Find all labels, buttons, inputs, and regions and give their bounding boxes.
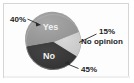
callout-value-yes: 40% xyxy=(10,15,26,24)
callout-value-no-opinion: 15% xyxy=(99,27,115,36)
pie-chart-svg: Yes No 40% 15% No opinion 45% xyxy=(0,0,134,83)
chart-plot-area: Yes No 40% 15% No opinion 45% xyxy=(0,0,134,83)
pie-inside-label-yes: Yes xyxy=(43,22,59,32)
pie-slices-group xyxy=(25,12,81,70)
callout-value-no: 45% xyxy=(81,65,97,74)
callout-name-no-opinion: No opinion xyxy=(81,37,123,46)
pie-chart-figure: Yes No 40% 15% No opinion 45% xyxy=(0,0,134,83)
pie-inside-label-no: No xyxy=(43,51,55,61)
